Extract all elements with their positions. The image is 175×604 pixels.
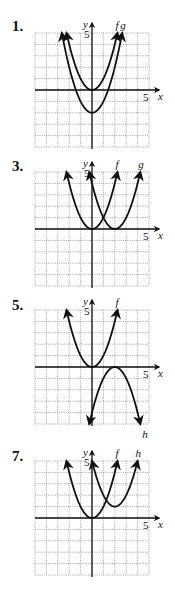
graph-panel-4: yx55fh (35, 446, 163, 577)
x-tick-label: 5 (143, 230, 149, 242)
problem-number: 7. (12, 448, 23, 465)
x-tick-label: 5 (143, 91, 149, 103)
curve-h (89, 367, 140, 424)
graphs-canvas: yx55fgyx55fgyx55fhyx55fh (0, 0, 175, 604)
y-tick-label: 5 (84, 28, 90, 40)
x-axis-label: x (157, 229, 163, 241)
curve-label-f: f (115, 158, 120, 170)
curve-label-g: g (138, 158, 144, 170)
curve-label-h: h (142, 428, 148, 440)
graph-panel-3: yx55fh (35, 295, 163, 440)
curve-label-f: f (115, 296, 120, 308)
problem-number: 5. (12, 297, 23, 314)
y-tick-label: 5 (84, 456, 90, 468)
x-tick-label: 5 (143, 519, 149, 531)
curve-label-g: g (120, 19, 126, 31)
graph-panel-1: yx55fg (35, 18, 163, 149)
problem-number: 1. (12, 18, 23, 35)
x-axis-label: x (157, 518, 163, 530)
curve-label-h: h (136, 447, 142, 459)
x-axis-label: x (157, 367, 163, 379)
x-tick-label: 5 (143, 368, 149, 380)
curve-label-f: f (115, 447, 120, 459)
problem-number: 3. (12, 158, 23, 175)
x-axis-label: x (157, 90, 163, 102)
y-tick-label: 5 (84, 305, 90, 317)
graph-panel-2: yx55fg (35, 157, 163, 288)
